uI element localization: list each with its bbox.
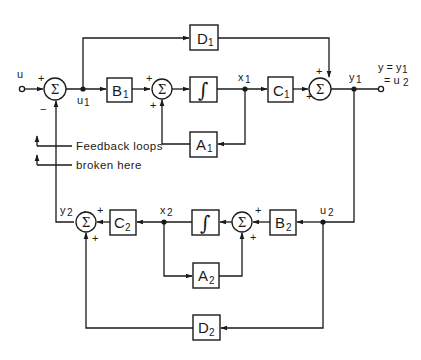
- output-label-line2-sub: 2: [403, 77, 409, 88]
- sign-plus: +: [306, 90, 312, 102]
- block-D1: D 1: [190, 25, 218, 50]
- block-integrator-2: ∫: [192, 210, 219, 235]
- annotation-line1: Feedback loops: [76, 140, 163, 152]
- block-A1: A 1: [190, 132, 217, 157]
- C1-main: C: [273, 82, 284, 99]
- y2-main: y: [60, 204, 66, 216]
- u1-sub: 1: [84, 97, 90, 108]
- D1-main: D: [197, 30, 208, 47]
- output-label-line1: y = y: [378, 61, 402, 73]
- block-B2: B 2: [270, 210, 296, 235]
- sum-junction-state-1: Σ: [152, 79, 172, 99]
- sigma-symbol: Σ: [238, 216, 246, 230]
- output-label: y = y 1 = u 2: [378, 61, 409, 88]
- A2-sub: 2: [209, 275, 215, 286]
- D2-sub: 2: [209, 327, 215, 338]
- C2-main: C: [114, 214, 125, 231]
- sign-plus: +: [38, 72, 44, 84]
- B2-sub: 2: [286, 222, 292, 233]
- sigma-symbol: Σ: [82, 216, 90, 230]
- wire-y1-to-u2: [324, 89, 354, 222]
- sum-junction-input: Σ: [44, 78, 66, 100]
- x1-main: x: [238, 71, 244, 83]
- sum-junction-output-2: Σ: [76, 212, 96, 232]
- wire-D1-to-sum-output: [218, 38, 329, 77]
- output-label-line2: = u: [384, 74, 400, 86]
- y1-sub: 1: [356, 74, 362, 85]
- block-D2: D 2: [193, 315, 220, 340]
- x2-main: x: [160, 204, 166, 216]
- A2-main: A: [198, 267, 208, 284]
- signal-label-x1: x 1: [238, 71, 251, 85]
- output-terminal-y: [378, 86, 383, 91]
- signal-label-y2: y 2: [60, 204, 73, 218]
- C2-sub: 2: [125, 222, 131, 233]
- D2-main: D: [198, 319, 209, 336]
- block-C2: C 2: [110, 210, 136, 235]
- sign-minus: −: [40, 103, 46, 115]
- block-diagram: u Σ + − u 1 D 1 B 1 Σ + + ∫ x: [0, 0, 421, 360]
- u2-sub: 2: [328, 207, 334, 218]
- annotation-line2: broken here: [76, 159, 142, 171]
- sigma-symbol: Σ: [51, 83, 59, 97]
- sign-plus: +: [150, 99, 156, 111]
- signal-label-x2: x 2: [160, 204, 173, 218]
- wire-A1-to-sum1: [162, 100, 190, 144]
- A1-main: A: [196, 136, 206, 153]
- sign-plus: +: [97, 204, 103, 216]
- sigma-symbol: Σ: [316, 83, 324, 97]
- B1-main: B: [112, 82, 122, 99]
- A1-sub: 1: [207, 143, 213, 154]
- wire-x2-to-A2: [164, 222, 192, 276]
- x2-sub: 2: [167, 207, 173, 218]
- wire-A2-to-sum2: [219, 233, 242, 276]
- B2-main: B: [275, 214, 285, 231]
- block-integrator-1: ∫: [190, 77, 217, 102]
- sign-plus: +: [255, 204, 261, 216]
- output-label-line1-sub: 1: [402, 64, 408, 75]
- wire-x1-to-A1: [218, 89, 245, 144]
- input-terminal-u: u: [17, 68, 25, 92]
- y2-sub: 2: [67, 207, 73, 218]
- B1-sub: 1: [123, 89, 129, 100]
- sign-plus: +: [92, 232, 98, 244]
- y1-main: y: [349, 71, 355, 83]
- block-B1: B 1: [107, 78, 132, 102]
- D1-sub: 1: [208, 37, 214, 48]
- block-C1: C 1: [268, 77, 293, 102]
- u2-main: u: [320, 204, 326, 216]
- sign-plus: +: [250, 231, 256, 243]
- input-label: u: [17, 68, 23, 80]
- wire-u2-to-D2: [221, 222, 323, 328]
- sign-plus: +: [146, 72, 152, 84]
- signal-label-y1: y 1: [349, 71, 362, 85]
- wire-D2-to-sum-output2: [86, 233, 193, 328]
- sigma-symbol: Σ: [158, 83, 166, 97]
- x1-sub: 1: [245, 74, 251, 85]
- sign-plus: +: [316, 65, 322, 77]
- signal-label-u1: u 1: [77, 94, 90, 108]
- wire-u1-to-D1: [83, 38, 189, 89]
- sum-junction-state-2: Σ: [232, 212, 252, 232]
- C1-sub: 1: [284, 89, 290, 100]
- block-A2: A 2: [193, 263, 219, 288]
- integral-symbol: ∫: [200, 211, 210, 235]
- signal-label-u2: u 2: [320, 204, 334, 218]
- integral-symbol: ∫: [198, 78, 208, 102]
- u1-main: u: [77, 94, 83, 106]
